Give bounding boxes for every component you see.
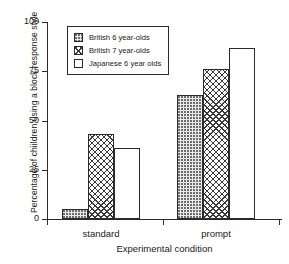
- y-tick-100: 100: [42, 22, 47, 23]
- legend-swatch-empty-icon: [74, 59, 83, 68]
- bar-standard-series-0: [62, 209, 88, 219]
- legend: British 6 year-olds British 7 year-olds …: [67, 26, 169, 75]
- legend-item-japanese-6: Japanese 6 year olds: [74, 57, 161, 70]
- legend-label-japanese-6: Japanese 6 year olds: [89, 59, 161, 68]
- x-category-label-standard: standard: [61, 228, 141, 239]
- bar-prompt-series-1: [203, 69, 229, 219]
- y-axis-title: Percentage of chiildren using a block re…: [29, 13, 39, 213]
- legend-label-british-6: British 6 year-olds: [89, 33, 150, 42]
- y-tick-50: 50: [42, 121, 47, 122]
- x-axis-line: [47, 219, 282, 220]
- bar-chart-figure: Percentage of chiildren using a block re…: [0, 0, 289, 264]
- bar-standard-series-1: [88, 134, 114, 219]
- legend-item-british-7: British 7 year-olds: [74, 44, 161, 57]
- y-tick-label-100: 100: [24, 16, 39, 27]
- bar-prompt-series-2: [229, 48, 255, 219]
- x-tick-1: [163, 219, 164, 225]
- bar-standard-series-2: [114, 148, 140, 219]
- legend-item-british-6: British 6 year-olds: [74, 31, 161, 44]
- legend-swatch-dots-icon: [74, 33, 83, 42]
- y-tick-label-50: 50: [29, 115, 39, 126]
- x-tick-0: [47, 219, 48, 225]
- legend-label-british-7: British 7 year-olds: [89, 46, 150, 55]
- y-tick-label-0: 0: [34, 213, 39, 224]
- legend-swatch-crosshatch-icon: [74, 46, 83, 55]
- x-tick-2: [279, 219, 280, 225]
- y-tick-75: 75: [42, 71, 47, 72]
- x-axis-title: Experimental condition: [47, 243, 282, 254]
- y-axis-line: [47, 22, 48, 219]
- y-tick-25: 25: [42, 170, 47, 171]
- x-category-label-prompt: prompt: [176, 228, 256, 239]
- y-tick-label-25: 25: [29, 164, 39, 175]
- y-tick-label-75: 75: [29, 65, 39, 76]
- bar-prompt-series-0: [177, 95, 203, 219]
